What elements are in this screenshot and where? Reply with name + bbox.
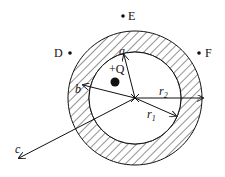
point-e-label: E — [128, 9, 135, 23]
charge-label: +Q — [109, 62, 125, 76]
spherical-shell-diagram: +Q a b c r2 r1 E D F — [0, 0, 225, 177]
point-f-label: F — [205, 46, 212, 60]
label-c: c — [15, 142, 21, 156]
point-d-label: D — [54, 46, 63, 60]
label-a: a — [119, 44, 125, 58]
point-e-dot — [121, 14, 125, 18]
charge-dot — [111, 78, 120, 87]
point-f-dot — [197, 51, 201, 55]
point-d-dot — [68, 51, 72, 55]
label-b: b — [75, 82, 81, 96]
